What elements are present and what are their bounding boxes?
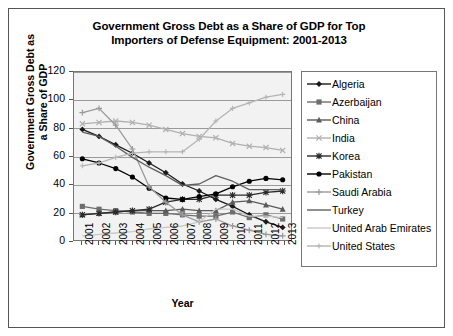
x-tick-mark (233, 241, 234, 245)
x-tick-mark (81, 241, 82, 245)
legend-item-label: Korea (332, 150, 360, 162)
legend-marker-icon (306, 95, 332, 109)
legend-item-label: United States (332, 240, 395, 252)
x-tick-label: 2002 (102, 205, 112, 245)
x-tick-mark (183, 241, 184, 245)
legend-item-united-states[interactable]: United States (306, 237, 434, 255)
legend-marker-icon (306, 203, 332, 217)
x-tick-mark (115, 241, 116, 245)
x-tick-label: 2012 (271, 205, 281, 245)
x-tick-mark (216, 241, 217, 245)
legend-item-china[interactable]: China (306, 111, 434, 129)
legend-item-label: India (332, 132, 355, 144)
x-tick-label: 2003 (119, 205, 129, 245)
legend-marker-icon (306, 185, 332, 199)
x-tick-mark (149, 241, 150, 245)
y-tick-label: 60 (31, 150, 65, 160)
y-tick-label: 20 (31, 207, 65, 217)
chart-title-line-1: Government Gross Debt as a Share of GDP … (29, 19, 429, 33)
y-tick-label: 80 (31, 122, 65, 132)
legend-item-turkey[interactable]: Turkey (306, 201, 434, 219)
chart-legend: AlgeriaAzerbaijanChinaIndiaKoreaPakistan… (301, 71, 437, 267)
series-pakistan (80, 156, 285, 202)
legend-item-label: Saudi Arabia (332, 186, 392, 198)
y-tick-label: 0 (31, 235, 65, 245)
y-tick-label: 100 (31, 93, 65, 103)
chart-title: Government Gross Debt as a Share of GDP … (29, 19, 429, 47)
x-tick-label: 2011 (254, 205, 264, 245)
x-tick-label: 2009 (220, 205, 230, 245)
x-tick-label: 2001 (85, 205, 95, 245)
x-tick-mark (199, 241, 200, 245)
x-tick-label: 2010 (237, 205, 247, 245)
chart-title-line-2: Importers of Defense Equipment: 2001-201… (29, 33, 429, 47)
legend-marker-icon (306, 77, 332, 91)
x-tick-label: 2004 (136, 205, 146, 245)
legend-item-korea[interactable]: Korea (306, 147, 434, 165)
legend-item-label: Algeria (332, 78, 365, 90)
x-tick-mark (267, 241, 268, 245)
legend-item-pakistan[interactable]: Pakistan (306, 165, 434, 183)
legend-marker-icon (306, 113, 332, 127)
x-tick-mark (132, 241, 133, 245)
y-tick-label: 40 (31, 178, 65, 188)
legend-item-label: Pakistan (332, 168, 372, 180)
legend-item-label: China (332, 114, 359, 126)
chart-figure: Government Gross Debt as a Share of GDP … (8, 8, 445, 328)
legend-item-united-arab-emirates[interactable]: United Arab Emirates (306, 219, 434, 237)
x-tick-label: 2006 (170, 205, 180, 245)
legend-marker-icon (306, 221, 332, 235)
x-tick-label: 2007 (187, 205, 197, 245)
x-tick-label: 2005 (153, 205, 163, 245)
x-tick-label: 2013 (288, 205, 298, 245)
legend-marker-icon (306, 149, 332, 163)
legend-item-saudi-arabia[interactable]: Saudi Arabia (306, 183, 434, 201)
x-tick-mark (166, 241, 167, 245)
x-tick-mark (98, 241, 99, 245)
legend-item-algeria[interactable]: Algeria (306, 75, 434, 93)
x-tick-mark (284, 241, 285, 245)
y-tick-mark (69, 241, 73, 242)
series-united-states (80, 92, 285, 169)
legend-item-label: United Arab Emirates (332, 222, 431, 234)
legend-item-label: Azerbaijan (332, 96, 382, 108)
x-tick-label: 2008 (203, 205, 213, 245)
x-tick-mark (250, 241, 251, 245)
legend-marker-icon (306, 131, 332, 145)
legend-item-azerbaijan[interactable]: Azerbaijan (306, 93, 434, 111)
legend-marker-icon (306, 167, 332, 181)
legend-item-label: Turkey (332, 204, 364, 216)
series-india (80, 118, 285, 153)
legend-marker-icon (306, 239, 332, 253)
y-tick-label: 120 (31, 65, 65, 75)
x-axis-label: Year (73, 297, 292, 309)
legend-item-india[interactable]: India (306, 129, 434, 147)
